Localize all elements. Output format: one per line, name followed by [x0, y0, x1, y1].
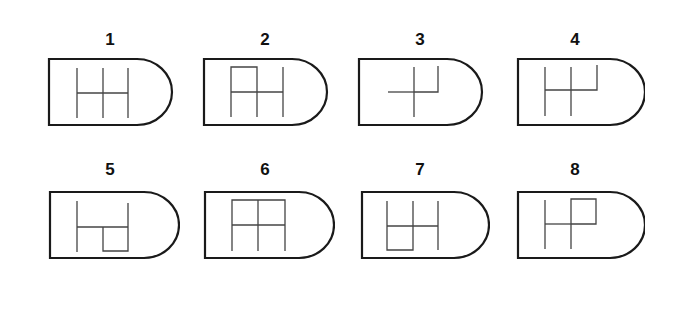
- shape-item-2: 2: [195, 20, 335, 130]
- shift-knob-6-icon: [195, 150, 335, 260]
- shift-knob-2-icon: [195, 20, 335, 130]
- shift-knob-5-icon: [40, 150, 180, 260]
- shift-knob-4-icon: [505, 20, 645, 130]
- shift-knob-8-icon: [505, 150, 645, 260]
- shift-knob-3-icon: [350, 20, 490, 130]
- shape-item-8: 8: [505, 150, 645, 260]
- shape-item-5: 5: [40, 150, 180, 260]
- shape-item-3: 3: [350, 20, 490, 130]
- shape-item-4: 4: [505, 20, 645, 130]
- shape-item-6: 6: [195, 150, 335, 260]
- shape-item-7: 7: [350, 150, 490, 260]
- shape-item-1: 1: [40, 20, 180, 130]
- shift-knob-7-icon: [350, 150, 490, 260]
- shift-knob-1-icon: [40, 20, 180, 130]
